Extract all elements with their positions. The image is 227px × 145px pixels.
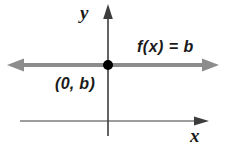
y-axis-arrowhead-icon: [103, 4, 113, 19]
function-equation-label: f(x) = b: [137, 39, 194, 55]
y-intercept-point-marker: [103, 60, 113, 70]
function-line-right-arrowhead-icon: [202, 59, 219, 72]
y-intercept-coordinate-label: (0, b): [55, 76, 95, 92]
x-axis-label: x: [190, 126, 200, 145]
graph-canvas: [0, 0, 227, 145]
function-line-left-arrowhead-icon: [7, 59, 24, 72]
x-axis: [20, 117, 209, 126]
y-axis-label: y: [80, 3, 88, 22]
constant-function-graph-figure: y x f(x) = b (0, b): [0, 0, 227, 145]
